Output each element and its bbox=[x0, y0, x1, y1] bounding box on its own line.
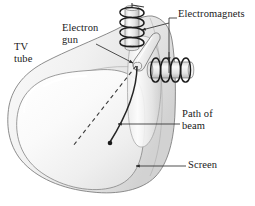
tv-tube-diagram-svg bbox=[0, 0, 255, 206]
label-electron-gun: Electron gun bbox=[62, 22, 98, 45]
label-electromagnets: Electromagnets bbox=[178, 8, 245, 20]
label-path-of-beam: Path of beam bbox=[182, 108, 213, 131]
tv-tube-figure: Electromagnets Electron gun TV tube Path… bbox=[0, 0, 255, 206]
label-tv-tube: TV tube bbox=[14, 41, 32, 64]
beam-impact-dot bbox=[108, 141, 113, 146]
label-screen: Screen bbox=[188, 159, 217, 171]
